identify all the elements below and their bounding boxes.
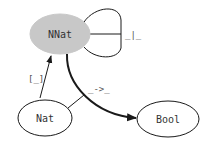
node-label-nnat: NNat — [48, 29, 72, 40]
node-label-nat: Nat — [36, 113, 54, 124]
node-label-bool: Bool — [156, 114, 180, 125]
edge-label-bottom: _|_ — [125, 30, 142, 40]
node-bool[interactable]: Bool — [137, 101, 199, 137]
edge-gt[interactable]: _->_ — [67, 54, 136, 118]
node-nnat[interactable]: NNat — [30, 14, 90, 54]
edge-bottom[interactable]: _|_ — [84, 9, 142, 57]
edge-embed[interactable]: [_] — [28, 56, 51, 98]
edge-label-embed: [_] — [28, 74, 44, 84]
node-nat[interactable]: Nat — [18, 100, 72, 136]
type-diagram: _|_ [_] _->_ NNat Nat Bool — [0, 0, 206, 144]
edge-label-gt: _->_ — [88, 84, 110, 94]
